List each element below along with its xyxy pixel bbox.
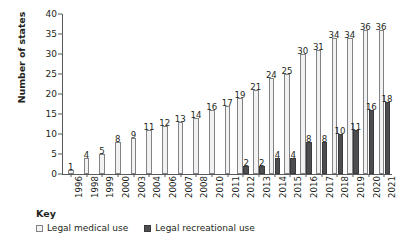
y-axis-ticks: 0510152025303540 bbox=[36, 14, 62, 174]
bar-value-label: 8 bbox=[322, 135, 327, 144]
bar: 12 bbox=[162, 126, 168, 174]
bar: 21 bbox=[253, 90, 259, 174]
bar-value-label: 30 bbox=[297, 47, 308, 56]
y-tick-label: 5 bbox=[51, 150, 57, 159]
legend-item-label: Legal recreational use bbox=[155, 223, 255, 233]
bar-value-label: 13 bbox=[175, 115, 186, 124]
bar-value-label: 18 bbox=[382, 95, 393, 104]
bar: 8 bbox=[322, 142, 328, 174]
bar-value-label: 10 bbox=[335, 127, 346, 136]
plot-area: 0510152025303540 14589111213141617192212… bbox=[36, 14, 392, 174]
legend-items: Legal medical useLegal recreational use bbox=[36, 223, 255, 233]
x-axis-labels: 1996199819992000200320042006200720082010… bbox=[63, 176, 392, 202]
bar: 10 bbox=[338, 134, 344, 174]
y-axis-title: Number of states bbox=[16, 0, 27, 123]
bar: 16 bbox=[209, 110, 215, 174]
x-label-cell: 1996 bbox=[63, 176, 79, 202]
y-tick-label: 30 bbox=[46, 50, 57, 59]
bar: 19 bbox=[237, 98, 243, 174]
legend-swatch-medical-icon bbox=[36, 225, 43, 232]
bar-group: 254 bbox=[282, 14, 298, 174]
x-label-cell: 2017 bbox=[314, 176, 330, 202]
bar-value-label: 2 bbox=[243, 159, 248, 168]
bar-value-label: 36 bbox=[376, 23, 387, 32]
legend: Key Legal medical useLegal recreational … bbox=[36, 208, 255, 233]
x-label-cell: 2019 bbox=[345, 176, 361, 202]
bar: 17 bbox=[225, 106, 231, 174]
bar-group: 3410 bbox=[329, 14, 345, 174]
bar-value-label: 11 bbox=[144, 123, 155, 132]
x-label-cell: 2008 bbox=[188, 176, 204, 202]
bar-value-label: 25 bbox=[282, 67, 293, 76]
bar: 8 bbox=[115, 142, 121, 174]
bar: 11 bbox=[353, 130, 359, 174]
bar-group: 318 bbox=[314, 14, 330, 174]
bar: 5 bbox=[99, 154, 105, 174]
bar-value-label: 17 bbox=[222, 99, 233, 108]
x-label-cell: 2014 bbox=[267, 176, 283, 202]
bar-value-label: 4 bbox=[275, 151, 280, 160]
bar-group: 11 bbox=[141, 14, 157, 174]
bars-container: 1458911121314161719221224425430831834103… bbox=[63, 14, 392, 174]
y-tick-label: 40 bbox=[46, 10, 57, 19]
bar-value-label: 16 bbox=[206, 103, 217, 112]
x-label-cell: 2018 bbox=[329, 176, 345, 202]
bar-group: 13 bbox=[173, 14, 189, 174]
bar-group: 8 bbox=[110, 14, 126, 174]
x-label-cell: 2013 bbox=[251, 176, 267, 202]
bar-value-label: 31 bbox=[313, 43, 324, 52]
y-tick-label: 25 bbox=[46, 70, 57, 79]
x-label-cell: 2003 bbox=[126, 176, 142, 202]
legend-title: Key bbox=[36, 208, 255, 219]
x-label-cell: 2011 bbox=[220, 176, 236, 202]
bar: 31 bbox=[316, 50, 322, 174]
bar-value-label: 24 bbox=[266, 71, 277, 80]
bar-group: 212 bbox=[251, 14, 267, 174]
bar-value-label: 16 bbox=[366, 103, 377, 112]
bar-value-label: 8 bbox=[115, 135, 120, 144]
bar-value-label: 2 bbox=[259, 159, 264, 168]
bar-value-label: 4 bbox=[290, 151, 295, 160]
bar-value-label: 11 bbox=[350, 123, 361, 132]
bar: 9 bbox=[131, 138, 137, 174]
bar: 2 bbox=[243, 166, 249, 174]
bar-value-label: 21 bbox=[250, 83, 261, 92]
bar-group: 4 bbox=[79, 14, 95, 174]
legend-item-label: Legal medical use bbox=[47, 223, 128, 233]
x-label-cell: 1998 bbox=[79, 176, 95, 202]
bar-group: 5 bbox=[94, 14, 110, 174]
x-tick-label: 2021 bbox=[388, 176, 397, 198]
x-label-cell: 2004 bbox=[141, 176, 157, 202]
bar: 16 bbox=[369, 110, 375, 174]
bar: 2 bbox=[259, 166, 265, 174]
x-label-cell: 2010 bbox=[204, 176, 220, 202]
bar-value-label: 8 bbox=[306, 135, 311, 144]
bar-value-label: 19 bbox=[235, 91, 246, 100]
bar: 4 bbox=[275, 158, 281, 174]
bar-group: 14 bbox=[188, 14, 204, 174]
x-label-cell: 2020 bbox=[361, 176, 377, 202]
legend-item[interactable]: Legal recreational use bbox=[144, 223, 255, 233]
x-label-cell: 2021 bbox=[376, 176, 392, 202]
bar: 13 bbox=[178, 122, 184, 174]
x-label-cell: 2016 bbox=[298, 176, 314, 202]
bar-value-label: 34 bbox=[344, 31, 355, 40]
bar-group: 3618 bbox=[376, 14, 392, 174]
bar-group: 12 bbox=[157, 14, 173, 174]
x-label-cell: 2007 bbox=[173, 176, 189, 202]
x-label-cell: 2012 bbox=[235, 176, 251, 202]
legend-item[interactable]: Legal medical use bbox=[36, 223, 128, 233]
bar-value-label: 1 bbox=[68, 163, 73, 172]
bar: 8 bbox=[306, 142, 312, 174]
bar: 34 bbox=[332, 38, 338, 174]
bar: 14 bbox=[193, 118, 199, 174]
bar: 4 bbox=[84, 158, 90, 174]
x-label-cell: 2006 bbox=[157, 176, 173, 202]
bar-value-label: 34 bbox=[329, 31, 340, 40]
y-tick-label: 0 bbox=[51, 170, 57, 179]
bar: 24 bbox=[269, 78, 275, 174]
bar: 25 bbox=[284, 74, 290, 174]
bar: 34 bbox=[347, 38, 353, 174]
bar-group: 9 bbox=[126, 14, 142, 174]
bar-group: 16 bbox=[204, 14, 220, 174]
